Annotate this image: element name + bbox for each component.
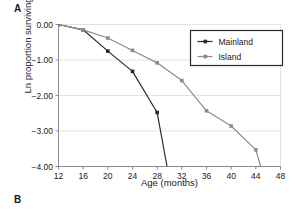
series-mainland [57,23,167,167]
y-tick-label: −4.00 [31,162,53,172]
legend-label: Island [219,52,242,62]
chart-legend[interactable]: MainlandIsland [191,31,283,66]
y-tick-label: −2.00 [31,91,53,101]
legend-label: Mainland [219,37,254,47]
figure-panel: A 12162024283236404448 0.00−1.00−2.00−3.… [0,0,295,211]
y-axis-ticks: 0.00−1.00−2.00−3.00−4.00 [31,20,58,172]
y-tick-label: 0.00 [36,20,53,30]
y-tick-label: −1.00 [31,55,53,65]
survival-curve-chart: 12162024283236404448 0.00−1.00−2.00−3.00… [0,0,295,190]
x-axis-label: Age (months) [58,177,281,188]
panel-b-label: B [14,194,21,205]
y-tick-label: −3.00 [31,126,53,136]
y-axis-label: Ln proportion surviving [22,0,33,121]
chart-canvas: 12162024283236404448 0.00−1.00−2.00−3.00… [0,0,295,190]
